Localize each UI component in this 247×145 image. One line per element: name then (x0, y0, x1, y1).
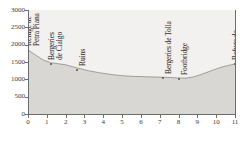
x-axis-tick-label: 3 (76, 119, 92, 126)
x-axis-tick-label: 8 (171, 119, 187, 126)
waypoint-label: Bergeries de Tolla (165, 21, 173, 74)
x-axis-tick-label: 2 (58, 119, 74, 126)
waypoint-label-line: de Cialgo (55, 31, 64, 59)
x-axis-tick-label: 5 (114, 119, 130, 126)
waypoint-label: Bergeriesde Cialgo (48, 10, 64, 60)
x-axis-tick-label: 0 (20, 119, 36, 126)
waypoint-marker (178, 78, 180, 80)
y-axis-tick-label: 500 (15, 93, 26, 100)
y-axis-tick (25, 62, 28, 63)
waypoint-label-line: Petra Piana (32, 13, 41, 46)
x-axis-tick-label: 4 (95, 119, 111, 126)
y-axis-tick (25, 27, 28, 28)
plot-area: Refuge dePetra PianaBergeriesde CialgoRu… (28, 10, 235, 114)
y-axis-tick-label: 2500 (11, 24, 25, 31)
y-axis-tick-label: 0 (22, 111, 26, 118)
x-axis-line (28, 114, 236, 115)
x-axis-tick-label: 11 (227, 119, 243, 126)
x-axis-tick-label: 10 (208, 119, 224, 126)
y-axis-tick (25, 10, 28, 11)
x-axis-tick-label: 9 (189, 119, 205, 126)
right-spine (235, 10, 236, 115)
elevation-profile-chart: Refuge dePetra PianaBergeriesde CialgoRu… (0, 0, 247, 145)
y-axis-tick (25, 97, 28, 98)
y-axis-tick-label: 2000 (11, 41, 25, 48)
waypoint-marker (50, 63, 52, 65)
waypoint-label: Footbridge (181, 43, 189, 75)
x-axis-tick-label: 7 (152, 119, 168, 126)
y-axis-line (28, 10, 29, 115)
y-axis-tick (25, 79, 28, 80)
y-axis-tick-label: 1500 (11, 59, 25, 66)
y-axis-tick (25, 45, 28, 46)
waypoint-label: Ruins (79, 49, 87, 66)
x-axis-tick-label: 1 (39, 119, 55, 126)
y-axis-tick-label: 3000 (11, 7, 25, 14)
waypoint-label: Refuge dePetra Piana (28, 10, 41, 46)
x-axis-tick-label: 6 (133, 119, 149, 126)
y-axis-tick-label: 1000 (11, 76, 25, 83)
